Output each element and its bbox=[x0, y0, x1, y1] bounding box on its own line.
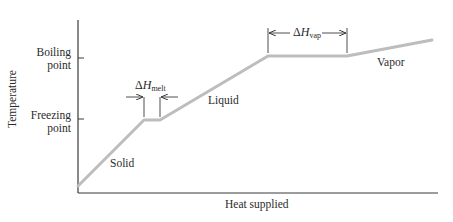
solid-region-label: Solid bbox=[110, 157, 134, 170]
freezing-label-line2: point bbox=[14, 122, 71, 135]
y-axis-title: Temperature bbox=[6, 70, 18, 128]
liquid-region-label: Liquid bbox=[208, 94, 239, 107]
delta-h-melt-symbol: ΔH bbox=[135, 78, 151, 92]
delta-h-melt-subscript: melt bbox=[151, 84, 165, 93]
delta-h-vap-subscript: vap bbox=[309, 31, 321, 40]
vapor-region-label: Vapor bbox=[377, 56, 404, 69]
heating-curve-diagram: Boiling point Freezing point Temperature… bbox=[0, 0, 453, 222]
freezing-label-line1: Freezing bbox=[14, 109, 71, 122]
boiling-point-label: Boiling point bbox=[14, 46, 71, 72]
delta-h-vap-label: ΔHvap bbox=[293, 26, 321, 42]
boiling-label-line1: Boiling bbox=[14, 46, 71, 59]
boiling-label-line2: point bbox=[14, 59, 71, 72]
delta-h-melt-label: ΔHmelt bbox=[135, 79, 166, 95]
x-axis-title: Heat supplied bbox=[225, 198, 289, 211]
freezing-point-label: Freezing point bbox=[14, 109, 71, 135]
delta-h-vap-symbol: ΔH bbox=[293, 25, 309, 39]
